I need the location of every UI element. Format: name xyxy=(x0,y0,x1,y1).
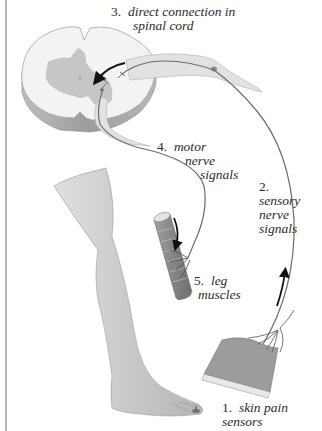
label-sensory-nerve-signals: 2. sensory nerve signals xyxy=(259,180,300,236)
skin-patch xyxy=(202,338,278,398)
label-direct-connection: 3. direct connection in spinal cord xyxy=(111,5,235,33)
label-motor-nerve-signals: 4. motor nerve signals xyxy=(157,140,238,182)
label-leg-muscles: 5. leg muscles xyxy=(194,274,241,302)
reflex-arc-diagram: 3. direct connection in spinal cord 4. m… xyxy=(0,0,322,431)
leg-muscle xyxy=(153,210,193,301)
label-skin-pain-sensors: 1. skin pain sensors xyxy=(222,401,288,429)
sensory-arrow-icon xyxy=(277,272,285,306)
